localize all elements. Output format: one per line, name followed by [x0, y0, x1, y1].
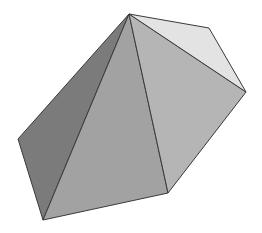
polyhedron-faces: [18, 14, 246, 220]
polyhedron-figure: [0, 0, 262, 233]
